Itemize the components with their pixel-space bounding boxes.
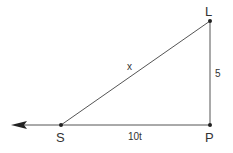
point-S	[59, 123, 63, 127]
label-hypotenuse: x	[127, 61, 132, 72]
label-L: L	[205, 4, 212, 19]
label-P: P	[205, 130, 214, 145]
label-horizontal: 10t	[128, 131, 142, 142]
label-S: S	[56, 130, 65, 145]
point-P	[208, 123, 212, 127]
label-vertical: 5	[215, 68, 221, 79]
triangle-diagram: L S P x 5 10t	[0, 0, 233, 153]
segment-hypotenuse	[61, 21, 210, 125]
point-L	[208, 19, 212, 23]
diagram-svg: L S P x 5 10t	[0, 0, 233, 153]
